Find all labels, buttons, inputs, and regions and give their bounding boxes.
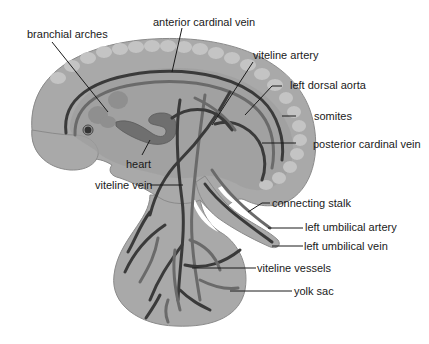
label-posterior-cardinal-vein: posterior cardinal vein bbox=[313, 138, 421, 150]
label-somites: somites bbox=[314, 110, 352, 122]
label-left-umbilical-vein: left umbilical vein bbox=[304, 240, 388, 252]
label-viteline-artery: viteline artery bbox=[253, 49, 319, 61]
label-anterior-cardinal-vein: anterior cardinal vein bbox=[153, 16, 255, 28]
label-left-dorsal-aorta: left dorsal aorta bbox=[290, 79, 367, 91]
label-left-umbilical-artery: left umbilical artery bbox=[305, 221, 397, 233]
label-viteline-vein: viteline vein bbox=[95, 179, 152, 191]
embryo-circulation-diagram: anterior cardinal vein branchial arches … bbox=[0, 0, 429, 344]
label-branchial-arches: branchial arches bbox=[27, 28, 108, 40]
label-heart: heart bbox=[126, 158, 151, 170]
label-connecting-stalk: connecting stalk bbox=[272, 197, 351, 209]
eye-marker bbox=[85, 127, 92, 134]
label-yolk-sac: yolk sac bbox=[294, 285, 334, 297]
label-viteline-vessels: viteline vessels bbox=[257, 262, 331, 274]
